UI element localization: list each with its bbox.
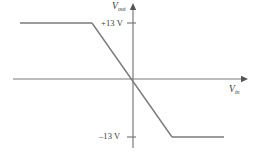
curve-linear-region xyxy=(92,23,172,137)
x-axis-label-subscript: in xyxy=(235,89,240,95)
plot-canvas xyxy=(0,0,259,155)
y-tick-label-negative: –13 V xyxy=(99,131,120,141)
y-axis-label-subscript: out xyxy=(118,6,126,12)
y-tick-label-positive: +13 V xyxy=(101,18,123,28)
transfer-characteristic-figure: Vout Vin +13 V –13 V xyxy=(0,0,259,155)
y-axis-label: Vout xyxy=(112,1,126,11)
x-axis-label: Vin xyxy=(229,84,240,94)
